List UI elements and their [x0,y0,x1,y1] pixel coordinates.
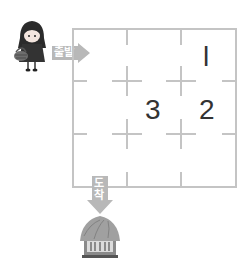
grid-border-right [235,28,237,188]
wall-stub [222,133,236,135]
grid-border-left [72,28,74,188]
wall-stub [73,133,87,135]
wall-stub [180,29,182,45]
grid-border-top [72,28,237,30]
wall-stub [180,172,182,187]
wall-stub [126,172,128,187]
cell-number: l [203,43,209,71]
wall-cross [126,119,128,149]
thatched-hut-icon [78,214,122,260]
cell-number: 3 [145,96,161,124]
maze-grid: l 3 2 [0,0,248,264]
wall-stub [126,29,128,45]
wall-stub [222,80,236,82]
wall-cross [180,119,182,149]
end-label-top: 도 [94,178,104,189]
cell-number: 2 [199,96,215,124]
wall-cross [126,66,128,96]
end-label-bottom: 착 [94,190,104,201]
wall-stub [73,80,87,82]
wall-cross [180,66,182,96]
end-arrow: 도 착 [87,176,113,214]
